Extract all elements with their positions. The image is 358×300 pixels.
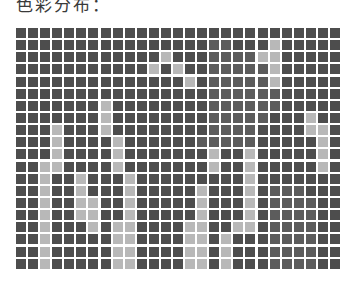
grid-cell: [52, 186, 62, 196]
grid-cell: [161, 28, 171, 38]
grid-cell: [173, 162, 183, 172]
grid-cell: [88, 28, 98, 38]
grid-cell: [125, 77, 135, 87]
grid-cell: [330, 234, 340, 244]
grid-cell: [76, 89, 86, 99]
grid-cell: [28, 89, 38, 99]
grid-cell: [101, 259, 111, 269]
grid-cell: [209, 77, 219, 87]
grid-cell: [245, 149, 255, 159]
grid-cell: [28, 40, 38, 50]
grid-cell: [64, 137, 74, 147]
grid-cell: [161, 222, 171, 232]
grid-cell: [28, 77, 38, 87]
grid-cell: [125, 222, 135, 232]
grid-cell: [16, 162, 26, 172]
grid-cell: [52, 52, 62, 62]
grid-cell: [149, 28, 159, 38]
grid-cell: [306, 137, 316, 147]
grid-cell: [258, 89, 268, 99]
grid-cell: [209, 174, 219, 184]
grid-cell: [330, 198, 340, 208]
grid-cell: [101, 137, 111, 147]
grid-cell: [294, 125, 304, 135]
grid-cell: [221, 89, 231, 99]
grid-cell: [294, 52, 304, 62]
grid-cell: [149, 247, 159, 257]
grid-cell: [245, 186, 255, 196]
grid-cell: [258, 40, 268, 50]
grid-cell: [318, 162, 328, 172]
grid-cell: [161, 125, 171, 135]
grid-cell: [330, 64, 340, 74]
grid-cell: [185, 247, 195, 257]
grid-cell: [330, 125, 340, 135]
grid-cell: [306, 89, 316, 99]
grid-cell: [28, 137, 38, 147]
grid-cell: [161, 162, 171, 172]
grid-cell: [149, 222, 159, 232]
grid-cell: [137, 40, 147, 50]
grid-cell: [318, 149, 328, 159]
grid-cell: [149, 40, 159, 50]
grid-cell: [270, 259, 280, 269]
grid-cell: [294, 174, 304, 184]
grid-cell: [197, 101, 207, 111]
grid-cell: [282, 64, 292, 74]
grid-cell: [294, 259, 304, 269]
grid-cell: [282, 77, 292, 87]
grid-cell: [64, 162, 74, 172]
grid-cell: [233, 64, 243, 74]
grid-cell: [137, 64, 147, 74]
grid-cell: [40, 234, 50, 244]
grid-cell: [149, 186, 159, 196]
grid-cell: [101, 222, 111, 232]
grid-cell: [270, 186, 280, 196]
grid-cell: [258, 64, 268, 74]
grid-cell: [76, 198, 86, 208]
grid-cell: [306, 28, 316, 38]
grid-cell: [161, 198, 171, 208]
grid-cell: [185, 198, 195, 208]
grid-cell: [16, 198, 26, 208]
grid-cell: [64, 234, 74, 244]
grid-cell: [149, 210, 159, 220]
grid-cell: [137, 137, 147, 147]
grid-cell: [185, 125, 195, 135]
grid-cell: [161, 149, 171, 159]
grid-cell: [282, 234, 292, 244]
grid-cell: [185, 101, 195, 111]
grid-cell: [185, 40, 195, 50]
grid-cell: [113, 174, 123, 184]
grid-cell: [161, 40, 171, 50]
grid-cell: [306, 52, 316, 62]
grid-cell: [173, 64, 183, 74]
grid-cell: [245, 198, 255, 208]
grid-cell: [161, 113, 171, 123]
grid-cell: [221, 259, 231, 269]
grid-cell: [101, 101, 111, 111]
grid-cell: [294, 101, 304, 111]
grid-cell: [245, 247, 255, 257]
grid-cell: [282, 259, 292, 269]
grid-cell: [101, 210, 111, 220]
grid-cell: [161, 64, 171, 74]
grid-cell: [185, 222, 195, 232]
grid-cell: [88, 174, 98, 184]
grid-cell: [88, 149, 98, 159]
grid-cell: [245, 77, 255, 87]
grid-cell: [306, 234, 316, 244]
grid-cell: [40, 52, 50, 62]
grid-cell: [233, 89, 243, 99]
grid-cell: [185, 174, 195, 184]
grid-cell: [101, 89, 111, 99]
grid-cell: [76, 247, 86, 257]
grid-cell: [197, 222, 207, 232]
grid-cell: [209, 198, 219, 208]
grid-cell: [137, 125, 147, 135]
grid-cell: [330, 149, 340, 159]
grid-cell: [197, 247, 207, 257]
grid-cell: [28, 52, 38, 62]
grid-cell: [270, 210, 280, 220]
grid-cell: [16, 89, 26, 99]
